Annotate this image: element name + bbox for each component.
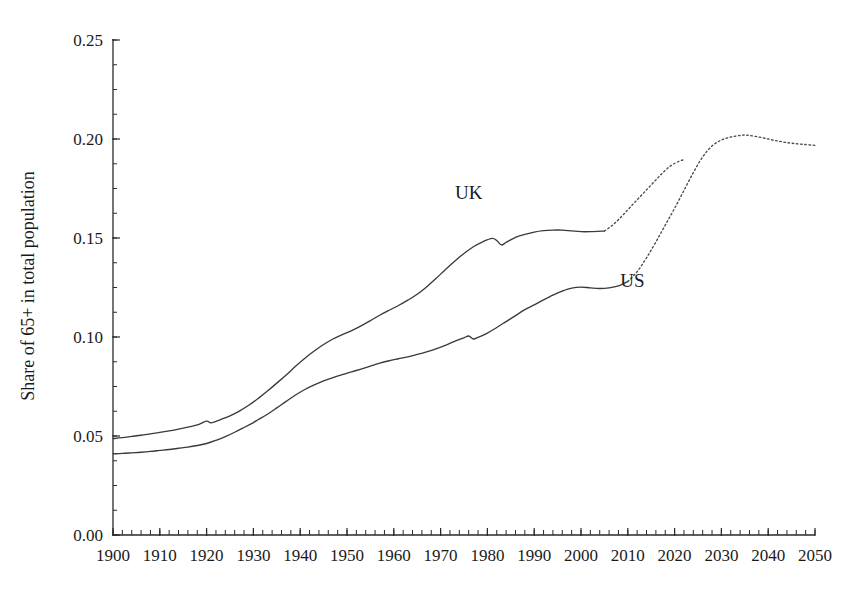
x-axis-tick-label: 1950 bbox=[330, 546, 364, 565]
x-axis-minor-ticks bbox=[113, 530, 815, 535]
x-axis: 1900191019201930194019501960197019801990… bbox=[96, 528, 832, 565]
x-axis-tick-label: 2030 bbox=[704, 546, 738, 565]
y-axis-tick-label: 0.00 bbox=[73, 526, 103, 545]
y-axis-tick-labels: 0.000.050.100.150.200.25 bbox=[73, 31, 103, 545]
series-us-observed bbox=[113, 282, 628, 454]
x-axis-tick-label: 1970 bbox=[424, 546, 458, 565]
x-axis-tick-label: 1920 bbox=[190, 546, 224, 565]
series-uk-observed bbox=[113, 230, 604, 439]
line-chart: 0.000.050.100.150.200.25 190019101920193… bbox=[0, 0, 854, 600]
x-axis-tick-label: 1990 bbox=[517, 546, 551, 565]
series-annotations: UKUS bbox=[455, 182, 645, 290]
y-axis: 0.000.050.100.150.200.25 bbox=[73, 31, 120, 545]
series-label-uk: UK bbox=[455, 182, 483, 203]
x-axis-tick-label: 1940 bbox=[283, 546, 317, 565]
y-axis-tick-label: 0.15 bbox=[73, 229, 103, 248]
y-axis-tick-label: 0.20 bbox=[73, 130, 103, 149]
x-axis-tick-label: 1930 bbox=[236, 546, 270, 565]
x-axis-tick-label: 1960 bbox=[377, 546, 411, 565]
chart-container: 0.000.050.100.150.200.25 190019101920193… bbox=[0, 0, 854, 600]
x-axis-tick-label: 2000 bbox=[564, 546, 598, 565]
y-axis-tick-label: 0.10 bbox=[73, 328, 103, 347]
series-us-projected bbox=[628, 135, 815, 282]
x-axis-tick-labels: 1900191019201930194019501960197019801990… bbox=[96, 546, 832, 565]
y-axis-title: Share of 65+ in total population bbox=[18, 171, 38, 401]
x-axis-tick-label: 1900 bbox=[96, 546, 130, 565]
x-axis-tick-label: 1980 bbox=[470, 546, 504, 565]
series-label-us: US bbox=[620, 270, 644, 291]
series-uk bbox=[113, 160, 684, 439]
y-axis-tick-label: 0.05 bbox=[73, 427, 103, 446]
x-axis-tick-label: 2050 bbox=[798, 546, 832, 565]
x-axis-tick-label: 1910 bbox=[143, 546, 177, 565]
series-uk-projected bbox=[604, 160, 684, 231]
x-axis-tick-label: 2020 bbox=[658, 546, 692, 565]
x-axis-tick-label: 2010 bbox=[611, 546, 645, 565]
y-axis-minor-ticks bbox=[113, 40, 117, 535]
y-axis-tick-label: 0.25 bbox=[73, 31, 103, 50]
x-axis-tick-label: 2040 bbox=[751, 546, 785, 565]
